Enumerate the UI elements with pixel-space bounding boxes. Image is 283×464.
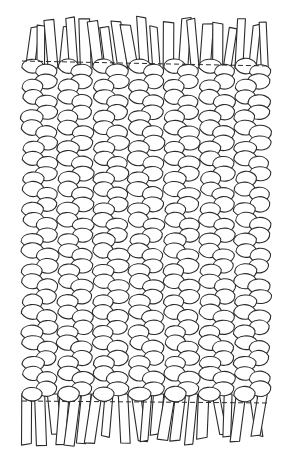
fringe-strand (21, 394, 31, 445)
fringe-strand (44, 19, 58, 68)
braid-columns (20, 58, 271, 402)
braid-strand-loop (128, 387, 151, 401)
fringe-strand (223, 394, 232, 437)
braided-rug-illustration (0, 0, 283, 464)
fringe-strand (150, 26, 160, 68)
braid-strand-loop (58, 386, 80, 402)
rug-drawing (0, 0, 283, 464)
braid-strand-loop (234, 386, 255, 401)
braid-strand-loop (198, 387, 220, 401)
fringe-strand (259, 22, 268, 68)
braid-strand-loop (93, 387, 114, 401)
braid-strand-loop (22, 387, 42, 401)
braid-strand-loop (164, 386, 186, 402)
fringe-strand (184, 394, 197, 445)
fringe-strand (35, 394, 47, 446)
